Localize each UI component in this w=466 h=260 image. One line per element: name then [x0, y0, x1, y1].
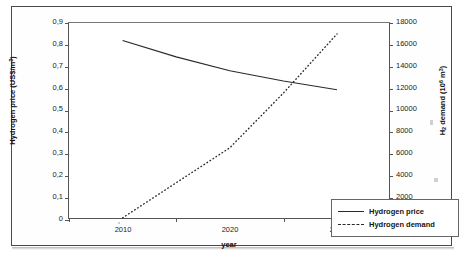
left-tick-label: 0,5: [38, 105, 63, 113]
right-tick-label: 6000: [396, 149, 413, 157]
legend-key-dashed-line-icon: [338, 220, 364, 229]
legend-item-hydrogen-price: Hydrogen price: [338, 205, 458, 218]
left-tick-label: 0,7: [38, 62, 63, 70]
series-hydrogen-demand: [123, 34, 337, 218]
left-tick-label: 0: [38, 215, 63, 223]
x-tick-label: 2010: [96, 226, 150, 234]
right-axis-title: H2 demand (106 m3): [438, 26, 447, 176]
right-axis-tick-labels: 18000 16000 14000 12000 10000 8000 6000 …: [396, 22, 440, 219]
scan-speckle: [118, 222, 120, 224]
legend-key-solid-line-icon: [338, 207, 364, 216]
chart-figure: 0,9 0,8 0,7 0,6 0,5 0,4 0,3 0,2 0,1 0 18…: [0, 0, 466, 260]
legend-label: Hydrogen price: [369, 207, 424, 216]
left-tick-label: 0,9: [38, 18, 63, 26]
series-canvas: [69, 23, 391, 220]
right-tick-label: 4000: [396, 171, 413, 179]
series-hydrogen-price: [123, 41, 337, 90]
legend-label: Hydrogen demand: [369, 220, 435, 229]
left-tick-label: 0,8: [38, 40, 63, 48]
left-tick-label: 0,2: [38, 171, 63, 179]
left-axis-title: Hydrogen price (US$/m3): [8, 26, 17, 176]
chart-legend: Hydrogen price Hydrogen demand: [331, 199, 459, 237]
right-tick-label: 8000: [396, 127, 413, 135]
right-tick-label: 18000: [396, 18, 417, 26]
left-tick-label: 0,4: [38, 127, 63, 135]
right-tick-label: 12000: [396, 84, 417, 92]
legend-item-hydrogen-demand: Hydrogen demand: [338, 218, 458, 231]
left-tick-label: 0,1: [38, 193, 63, 201]
plot-area: Hydrogen price Hydrogen demand: [68, 22, 390, 219]
right-tick-label: 16000: [396, 40, 417, 48]
left-tick-label: 0,3: [38, 149, 63, 157]
left-tick-label: 0,6: [38, 84, 63, 92]
x-tick-label: 2020: [203, 226, 257, 234]
left-axis-tick-labels: 0,9 0,8 0,7 0,6 0,5 0,4 0,3 0,2 0,1 0: [38, 22, 63, 219]
right-tick-label: 10000: [396, 105, 417, 113]
x-axis-title: year: [68, 240, 390, 249]
right-tick-label: 14000: [396, 62, 417, 70]
